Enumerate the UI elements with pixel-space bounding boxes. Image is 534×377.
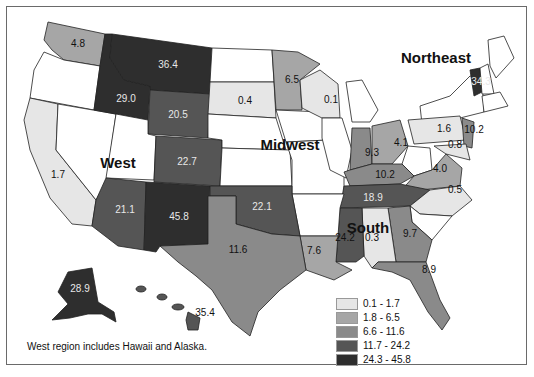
- value-mt: 36.4: [158, 59, 178, 70]
- region-label-midwest: Midwest: [260, 136, 319, 153]
- state-mi[interactable]: [346, 80, 378, 122]
- legend: 0.1 - 1.7 1.8 - 6.5 6.6 - 11.6 11.7 - 24…: [336, 297, 411, 367]
- state-ar[interactable]: [292, 194, 344, 236]
- value-al: 0.3: [365, 232, 379, 243]
- value-oh: 4.1: [394, 137, 408, 148]
- value-tx: 11.6: [229, 244, 248, 255]
- legend-label: 24.3 - 45.8: [363, 354, 411, 365]
- value-mn: 6.5: [285, 74, 299, 85]
- value-md: 0.8: [448, 139, 462, 150]
- state-ak[interactable]: [52, 268, 116, 322]
- legend-label: 1.8 - 6.5: [363, 312, 400, 323]
- value-ak: 28.9: [70, 283, 90, 294]
- value-wi: 0.1: [324, 94, 338, 105]
- legend-swatch: [336, 298, 358, 310]
- region-label-west: West: [100, 154, 136, 171]
- value-id: 29.0: [116, 93, 136, 104]
- value-fl: 8.9: [422, 264, 436, 275]
- legend-label: 6.6 - 11.6: [363, 326, 405, 337]
- state-ks[interactable]: [220, 148, 292, 186]
- state-ma-ct-ri[interactable]: [482, 92, 508, 112]
- region-label-northeast: Northeast: [401, 49, 471, 66]
- value-in: 9.3: [365, 147, 379, 158]
- value-vt: 34.3: [471, 76, 491, 87]
- legend-label: 11.7 - 24.2: [363, 340, 410, 351]
- legend-swatch: [336, 354, 358, 366]
- legend-swatch: [336, 340, 358, 352]
- value-az: 21.1: [115, 204, 135, 215]
- value-ky: 10.2: [375, 169, 395, 180]
- value-wy: 20.5: [168, 109, 188, 120]
- value-va: 4.0: [433, 163, 447, 174]
- value-nc: 0.5: [448, 184, 462, 195]
- legend-item: 6.6 - 11.6: [336, 325, 411, 338]
- legend-item: 11.7 - 24.2: [336, 339, 411, 352]
- value-ga: 9.7: [403, 228, 417, 239]
- us-choropleth-map: West Midwest Northeast South 4.8 36.4 29…: [0, 0, 534, 377]
- value-wa: 4.8: [71, 38, 85, 49]
- value-pa: 1.6: [437, 123, 451, 134]
- state-hi[interactable]: [136, 286, 200, 330]
- value-sd: 0.4: [238, 95, 252, 106]
- value-la: 7.6: [307, 245, 321, 256]
- state-nd[interactable]: [210, 48, 274, 82]
- value-hi: 35.4: [195, 307, 215, 318]
- value-co: 22.7: [177, 156, 197, 167]
- value-nm: 45.8: [169, 211, 189, 222]
- legend-label: 0.1 - 1.7: [363, 298, 400, 309]
- legend-item: 0.1 - 1.7: [336, 297, 411, 310]
- value-ca: 1.7: [51, 169, 65, 180]
- value-tn: 18.9: [363, 192, 383, 203]
- legend-item: 1.8 - 6.5: [336, 311, 411, 324]
- legend-swatch: [336, 312, 358, 324]
- state-me[interactable]: [488, 36, 514, 78]
- value-ms: 24.2: [335, 232, 355, 243]
- legend-item: 24.3 - 45.8: [336, 353, 411, 366]
- value-nj: 10.2: [464, 124, 484, 135]
- value-ok: 22.1: [252, 201, 272, 212]
- footnote: West region includes Hawaii and Alaska.: [27, 341, 207, 352]
- legend-swatch: [336, 326, 358, 338]
